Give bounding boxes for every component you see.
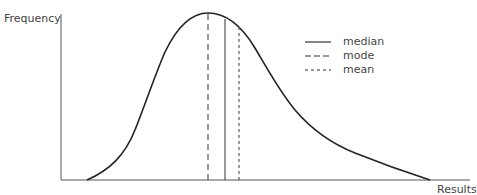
x-axis-label: Results (437, 183, 477, 195)
legend-median-label: median (343, 35, 384, 48)
legend-mode-label: mode (343, 49, 374, 62)
y-axis-label: Frequency (4, 12, 61, 25)
legend-mean-label: mean (343, 63, 374, 76)
chart-canvas (0, 0, 477, 195)
